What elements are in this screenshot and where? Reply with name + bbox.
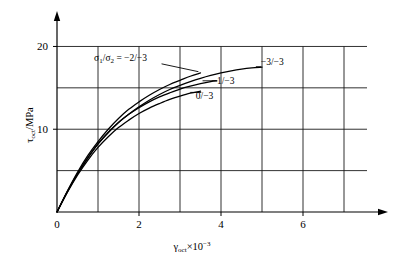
ratio-equals-value: = −2/−3 <box>114 53 147 63</box>
x-axis-exponent: −3 <box>203 240 211 248</box>
y-axis-unit: /MPa <box>24 107 35 130</box>
label-0-3: 0/−3 <box>196 91 214 101</box>
x-axis-subscript: oct <box>178 246 187 254</box>
x-tick-label: 2 <box>136 218 142 230</box>
x-tick-label: 0 <box>54 218 60 230</box>
y-tick-label: 10 <box>37 123 49 135</box>
label-3-3: −3/−3 <box>261 57 284 67</box>
y-tick-label: 20 <box>37 40 49 52</box>
chart-figure: 02461020 τoct/MPa γoct×10−3 σ1/σ2 = −2/−… <box>0 0 405 266</box>
x-tick-label: 6 <box>300 218 306 230</box>
x-axis-multiplier: ×10 <box>187 241 203 252</box>
y-axis-subscript: oct <box>29 130 37 139</box>
stress-strain-chart: 02461020 τoct/MPa γoct×10−3 σ1/σ2 = −2/−… <box>0 0 405 266</box>
x-tick-label: 4 <box>218 218 224 230</box>
